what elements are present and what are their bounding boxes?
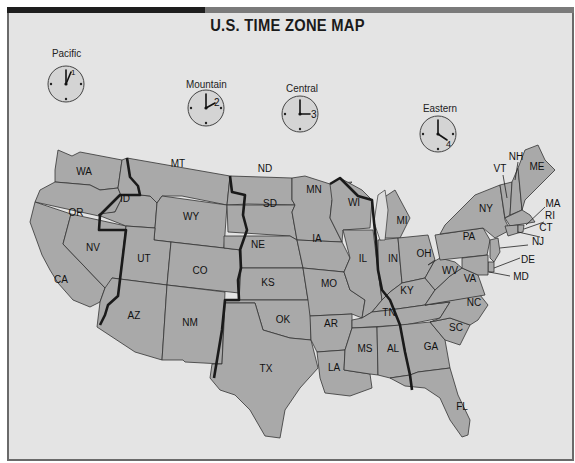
svg-text:VT: VT — [494, 163, 507, 174]
svg-text:SC: SC — [449, 322, 463, 333]
svg-text:CO: CO — [193, 265, 208, 276]
svg-text:KS: KS — [261, 277, 275, 288]
svg-text:WY: WY — [183, 211, 199, 222]
svg-text:PA: PA — [463, 231, 476, 242]
svg-text:MN: MN — [306, 184, 322, 195]
svg-text:MO: MO — [321, 278, 337, 289]
svg-text:AL: AL — [387, 343, 400, 354]
svg-text:OH: OH — [417, 248, 432, 259]
svg-text:IA: IA — [312, 233, 322, 244]
svg-text:TX: TX — [260, 363, 273, 374]
clock-icon-central: 3 — [282, 96, 318, 132]
svg-text:1: 1 — [71, 68, 76, 77]
clock-icon-eastern: 4 — [420, 116, 456, 152]
svg-text:NY: NY — [479, 203, 493, 214]
svg-text:DE: DE — [521, 254, 535, 265]
svg-text:4: 4 — [446, 139, 451, 149]
svg-text:GA: GA — [424, 341, 439, 352]
svg-text:WV: WV — [442, 265, 458, 276]
svg-text:ME: ME — [530, 161, 545, 172]
svg-text:MS: MS — [358, 343, 373, 354]
svg-text:MA: MA — [546, 198, 561, 209]
state-nd — [227, 176, 295, 205]
svg-text:LA: LA — [328, 362, 341, 373]
svg-text:WI: WI — [348, 197, 360, 208]
svg-text:NJ: NJ — [532, 236, 544, 247]
svg-text:3: 3 — [311, 109, 317, 120]
svg-text:FL: FL — [456, 401, 468, 412]
state-de — [488, 262, 494, 272]
svg-text:MT: MT — [171, 158, 185, 169]
svg-text:NM: NM — [182, 317, 198, 328]
clock-icon-pacific: 1 — [48, 66, 84, 102]
svg-text:VA: VA — [464, 273, 477, 284]
svg-text:OK: OK — [276, 314, 291, 325]
svg-text:CA: CA — [54, 274, 68, 285]
svg-text:NC: NC — [467, 297, 481, 308]
svg-text:ND: ND — [258, 163, 272, 174]
svg-text:2: 2 — [214, 97, 220, 108]
svg-text:OR: OR — [69, 207, 84, 218]
state-ct — [505, 225, 518, 236]
svg-text:WA: WA — [76, 166, 92, 177]
svg-text:IL: IL — [359, 253, 368, 264]
svg-text:RI: RI — [545, 210, 555, 221]
svg-text:SD: SD — [263, 198, 277, 209]
svg-text:NH: NH — [509, 151, 523, 162]
svg-text:AR: AR — [324, 318, 338, 329]
svg-text:MD: MD — [513, 271, 529, 282]
svg-text:CT: CT — [539, 222, 552, 233]
state-nj — [490, 238, 500, 262]
states — [30, 145, 555, 438]
svg-text:IN: IN — [388, 253, 398, 264]
svg-text:NV: NV — [86, 242, 100, 253]
svg-text:KY: KY — [400, 285, 414, 296]
svg-text:ID: ID — [120, 193, 130, 204]
state-sd — [227, 205, 297, 240]
svg-text:UT: UT — [137, 253, 150, 264]
us-map: 1 2 3 4 — [0, 0, 575, 463]
svg-text:TN: TN — [382, 307, 395, 318]
svg-text:AZ: AZ — [128, 310, 141, 321]
svg-text:NE: NE — [251, 239, 265, 250]
svg-text:MI: MI — [396, 215, 407, 226]
state-wy — [154, 196, 227, 248]
clock-icon-mountain: 2 — [188, 90, 224, 126]
state-ia — [297, 240, 350, 272]
